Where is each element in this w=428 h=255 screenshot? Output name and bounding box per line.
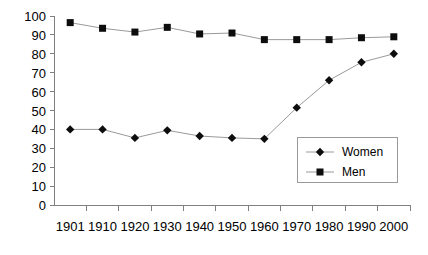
y-axis-tick-label: 20 (32, 160, 46, 175)
y-axis-tick-label: 100 (24, 9, 46, 24)
data-point-men-1950 (229, 30, 236, 37)
legend-label-women: Women (342, 145, 383, 159)
x-axis-tick-label: 1960 (250, 219, 279, 234)
x-axis-tick-label: 1970 (282, 219, 311, 234)
data-point-women-1930 (163, 126, 171, 134)
y-axis-tick-label: 60 (32, 85, 46, 100)
x-axis-tick-label: 1901 (56, 219, 85, 234)
data-point-men-1920 (131, 29, 138, 36)
x-axis-tick-label: 1930 (153, 219, 182, 234)
y-axis-tick-label: 40 (32, 122, 46, 137)
y-axis-tick-label: 10 (32, 179, 46, 194)
series-line-women (70, 54, 394, 139)
x-axis-tick-mark-group (86, 205, 410, 211)
line-chart: 1009080706050403020100 19011910192019301… (0, 0, 428, 255)
data-point-men-1910 (99, 25, 106, 32)
x-axis-tick-label: 1980 (315, 219, 344, 234)
x-axis-tick-label-group: 1901191019201930194019501960197019801990… (56, 219, 409, 234)
legend-marker-men (317, 169, 324, 176)
data-point-men-1930 (164, 24, 171, 31)
x-axis-tick-label: 1940 (185, 219, 214, 234)
y-axis-tick-label: 70 (32, 66, 46, 81)
data-point-men-1990 (358, 34, 365, 41)
data-point-women-1990 (357, 58, 365, 66)
data-point-men-2000 (390, 33, 397, 40)
y-axis-tick-label: 80 (32, 47, 46, 62)
data-point-women-2000 (390, 50, 398, 58)
x-axis-tick-label: 1950 (218, 219, 247, 234)
y-axis-tick-label: 50 (32, 104, 46, 119)
x-axis-tick-label: 1910 (88, 219, 117, 234)
legend-label-men: Men (342, 165, 365, 179)
x-axis-tick-label: 2000 (379, 219, 408, 234)
series-line-group (70, 23, 394, 139)
y-axis-tick-label-group: 1009080706050403020100 (24, 9, 46, 213)
data-point-women-1950 (228, 134, 236, 142)
y-axis-tick-label: 0 (39, 198, 46, 213)
data-point-men-1940 (196, 30, 203, 37)
data-point-men-1980 (326, 36, 333, 43)
x-axis-tick-label: 1990 (347, 219, 376, 234)
data-point-women-1901 (66, 125, 74, 133)
data-point-women-1910 (98, 125, 106, 133)
series-marker-group (66, 19, 398, 143)
y-axis-tick-label: 90 (32, 28, 46, 43)
chart-canvas: 1009080706050403020100 19011910192019301… (0, 0, 428, 255)
legend: WomenMen (297, 137, 397, 182)
y-axis-tick-label: 30 (32, 141, 46, 156)
data-point-men-1970 (293, 36, 300, 43)
y-axis-tick-mark-group (50, 16, 54, 205)
data-point-women-1940 (195, 132, 203, 140)
data-point-men-1960 (261, 36, 268, 43)
data-point-men-1901 (67, 19, 74, 26)
data-point-women-1920 (131, 134, 139, 142)
x-axis-tick-label: 1920 (120, 219, 149, 234)
